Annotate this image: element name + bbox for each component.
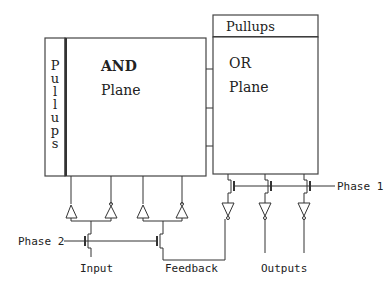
and-pullups-char: s [52, 136, 59, 151]
input-label: Input [80, 262, 113, 275]
and-pullups-block: P u l l u p s [45, 38, 65, 176]
outputs-label: Outputs [261, 262, 307, 275]
or-plane-block: OR Plane [213, 37, 318, 174]
product-term-lines [206, 69, 213, 146]
inverter-icon [259, 203, 271, 216]
pla-diagram: P u l l u p s AND Plane Pullups OR Plane [0, 0, 388, 288]
and-plane-block: AND Plane [65, 38, 206, 176]
or-pullups-block: Pullups [213, 15, 318, 37]
and-plane-subtitle: Plane [101, 82, 141, 98]
and-plane-title: AND [100, 58, 137, 74]
phase2-label: Phase 2 [18, 235, 64, 248]
buffer-icon [66, 205, 77, 218]
output-drivers [222, 174, 335, 260]
feedback-label: Feedback [165, 262, 218, 275]
inverter-icon [105, 206, 117, 218]
or-plane-title: OR [229, 55, 251, 71]
or-plane-subtitle: Plane [229, 79, 269, 95]
inverter-icon [298, 203, 310, 216]
input-drivers [66, 176, 188, 234]
inverter-icon [176, 206, 188, 218]
or-pullups-label: Pullups [226, 19, 275, 34]
buffer-icon [137, 205, 149, 218]
phase2-transistors [64, 234, 225, 260]
phase1-label: Phase 1 [337, 180, 383, 193]
inverter-icon [222, 203, 234, 216]
